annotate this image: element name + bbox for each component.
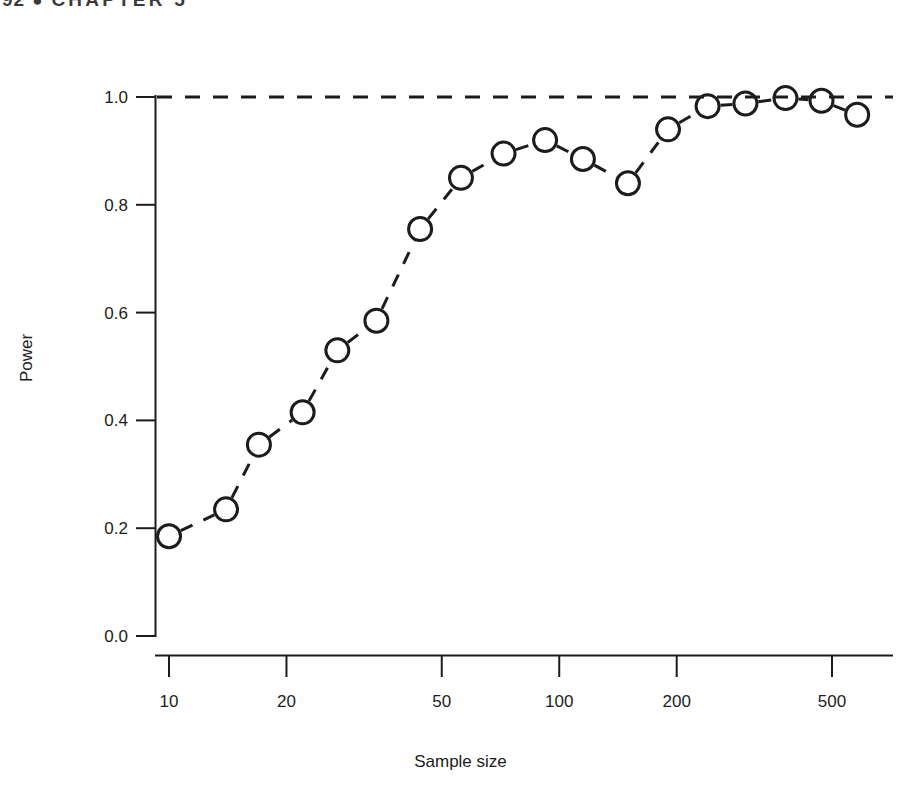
x-tick-label: 20 [277,692,296,711]
x-tick-label: 500 [818,692,846,711]
data-point-marker [571,147,594,170]
data-point-marker [409,218,432,241]
x-axis-ticks: 102050100200500 [160,656,847,711]
data-point-marker [215,498,238,521]
series-segment [428,188,453,219]
series-segment [181,515,215,531]
data-point-marker [696,95,719,118]
y-tick-label: 0.2 [104,519,128,538]
data-point-marker [492,142,515,165]
y-tick-label: 0.8 [104,196,128,215]
y-tick-label: 0.4 [104,411,128,430]
data-point-marker [534,129,557,152]
x-tick-label: 50 [432,692,451,711]
data-point-marker [449,166,472,189]
series-segment [834,106,845,110]
data-point-marker [616,172,639,195]
x-tick-label: 100 [545,692,573,711]
series-segment [309,362,331,401]
x-tick-label: 10 [160,692,179,711]
series-segment [348,329,366,343]
series-segment [594,165,616,177]
plot-canvas: 0.00.20.40.60.81.0 102050100200500 [0,0,921,812]
data-point-marker [657,118,680,141]
data-point-marker [158,525,181,548]
series-line-power [181,99,845,531]
y-axis-ticks: 0.00.20.40.60.81.0 [104,88,156,646]
series-segment [382,241,415,309]
data-point-marker [291,401,314,424]
data-point-marker [247,433,270,456]
series-segment [636,140,661,173]
series-segment [516,144,533,149]
x-axis-label: Sample size [0,752,921,772]
y-tick-label: 0.0 [104,627,128,646]
data-point-marker [326,339,349,362]
data-point-marker [846,103,869,126]
series-segment [472,160,492,171]
series-segment [557,146,572,153]
series-segment [758,100,772,102]
series-segment [232,456,253,498]
series-segment [721,104,733,105]
data-point-marker [365,309,388,332]
power-curve-figure: 0.00.20.40.60.81.0 102050100200500 Sampl… [0,0,921,812]
y-tick-label: 1.0 [104,88,128,107]
y-axis-label: Power [17,313,37,403]
x-tick-label: 200 [663,692,691,711]
series-markers-power [158,87,869,548]
series-segment [679,113,696,123]
data-point-marker [810,89,833,112]
series-segment [798,99,808,100]
y-tick-label: 0.6 [104,304,128,323]
axes [155,95,893,656]
series-segment [269,420,292,437]
